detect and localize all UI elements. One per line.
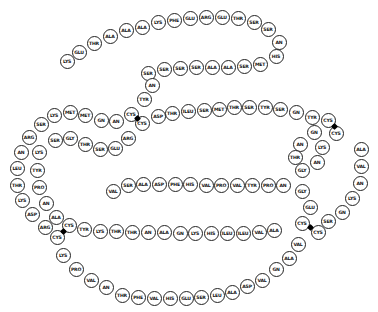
residue-an: AN — [276, 178, 291, 193]
residue-asp: ASP — [152, 177, 167, 192]
residue-ileu: ILEU — [236, 226, 251, 241]
residue-ser: SER — [48, 133, 63, 148]
residue-an: AN — [14, 145, 29, 160]
residue-gn: GN — [269, 262, 284, 277]
residue-phe: PHE — [168, 177, 183, 192]
residue-val: VAL — [84, 273, 99, 288]
residue-ala: ALA — [225, 285, 240, 300]
residue-thr: THR — [10, 178, 25, 193]
residue-gly: GLY — [295, 163, 310, 178]
residue-gn: GN — [289, 105, 304, 120]
residue-ileu: ILEU — [181, 104, 196, 119]
residue-val: VAL — [230, 178, 245, 193]
residue-thr: THR — [115, 288, 130, 303]
residue-val: VAL — [199, 178, 214, 193]
residue-val: VAL — [106, 184, 121, 199]
residue-lys: LYS — [188, 226, 203, 241]
residue-ala: ALA — [119, 23, 134, 38]
residue-ser: SER — [34, 117, 49, 132]
residue-ala: ALA — [135, 20, 150, 35]
residue-an: AN — [353, 176, 368, 191]
residue-ser: SER — [242, 100, 257, 115]
residue-gly: GLY — [63, 131, 78, 146]
residue-ala: ALA — [103, 29, 118, 44]
residue-gn: GN — [335, 205, 350, 220]
residue-val: VAL — [354, 159, 369, 174]
residue-tyr: TYR — [137, 92, 152, 107]
residue-thr: THR — [227, 100, 242, 115]
residue-met: MET — [63, 105, 78, 120]
residue-ser: SER — [173, 61, 188, 76]
residue-ala: ALA — [205, 60, 220, 75]
residue-met: MET — [253, 57, 268, 72]
residue-an: AN — [145, 78, 160, 93]
residue-asp: ASP — [151, 109, 166, 124]
residue-lys: LYS — [47, 108, 62, 123]
residue-tyr: TYR — [305, 110, 320, 125]
residue-glu: GLU — [108, 141, 123, 156]
protein-chain-diagram: LYSGLUTHRALAALAALALYSPHEGLUARGGLUTHRSERS… — [0, 0, 378, 312]
residue-ala: ALA — [221, 60, 236, 75]
residue-ala: ALA — [157, 225, 172, 240]
residue-asp: ASP — [240, 279, 255, 294]
residue-an: AN — [109, 114, 124, 129]
residue-glu: GLU — [179, 291, 194, 306]
residue-gn: GN — [307, 125, 322, 140]
residue-an: AN — [272, 35, 287, 50]
residue-glu: GLU — [183, 11, 198, 26]
residue-met: MET — [78, 108, 93, 123]
residue-arg: ARG — [121, 131, 136, 146]
residue-lys: LYS — [93, 224, 108, 239]
residue-arg: ARG — [22, 130, 37, 145]
residue-tyr: TYR — [245, 178, 260, 193]
residue-thr: THR — [109, 224, 124, 239]
residue-ala: ALA — [267, 223, 282, 238]
residue-val: VAL — [147, 291, 162, 306]
residue-leu: LEU — [210, 288, 225, 303]
residue-his: HIS — [204, 226, 219, 241]
residue-ala: ALA — [354, 142, 369, 157]
residue-ser: SER — [261, 22, 276, 37]
residue-glu: GLU — [215, 10, 230, 25]
residue-ser: SER — [189, 60, 204, 75]
residue-thr: THR — [165, 106, 180, 121]
residue-val: VAL — [291, 237, 306, 252]
residue-lys: LYS — [315, 140, 330, 155]
residue-ser: SER — [93, 142, 108, 157]
residue-ser: SER — [121, 178, 136, 193]
residue-ser: SER — [237, 59, 252, 74]
residue-ser: SER — [157, 62, 172, 77]
residue-asp: ASP — [25, 207, 40, 222]
residue-gn: GN — [173, 226, 188, 241]
residue-lys: LYS — [32, 145, 47, 160]
residue-lys: LYS — [15, 193, 30, 208]
residue-pro: PRO — [214, 178, 229, 193]
residue-thr: THR — [231, 11, 246, 26]
residue-ala: ALA — [282, 251, 297, 266]
residue-an: AN — [310, 155, 325, 170]
residue-ala: ALA — [136, 177, 151, 192]
residue-glu: GLU — [72, 45, 87, 60]
residue-gn: GN — [94, 113, 109, 128]
residue-phe: PHE — [131, 290, 146, 305]
residue-val: VAL — [252, 225, 267, 240]
residue-ser: SER — [321, 214, 336, 229]
residue-ser: SER — [197, 103, 212, 118]
residue-ileu: ILEU — [220, 226, 235, 241]
residue-his: HIS — [163, 291, 178, 306]
residue-val: VAL — [255, 273, 270, 288]
residue-pro: PRO — [69, 262, 84, 277]
residue-ala: ALA — [49, 210, 64, 225]
residue-arg: ARG — [199, 10, 214, 25]
residue-an: AN — [39, 196, 54, 211]
residue-met: MET — [212, 102, 227, 117]
residue-tyr: TYR — [77, 222, 92, 237]
residue-pro: PRO — [261, 178, 276, 193]
residue-tyr: TYR — [30, 163, 45, 178]
residue-ser: SER — [273, 102, 288, 117]
residue-thr: THR — [125, 225, 140, 240]
residue-ser: SER — [247, 15, 262, 30]
residue-ser: SER — [194, 290, 209, 305]
residue-thr: THR — [78, 137, 93, 152]
residue-lys: LYS — [151, 15, 166, 30]
